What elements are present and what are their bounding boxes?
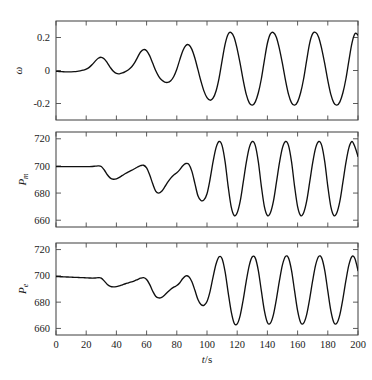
panel-0: 0.20-0.2ω (12, 21, 358, 120)
data-curve (56, 32, 358, 105)
x-tick-label: 0 (53, 339, 58, 350)
x-tick-label: 80 (172, 339, 183, 350)
three-panel-timeseries-figure: 0.20-0.2ω720700680660Pm02040608010012014… (0, 0, 372, 380)
y-tick-label: 680 (34, 188, 50, 199)
x-tick-label: 160 (290, 339, 306, 350)
y-axis-label: Pe (16, 283, 30, 295)
y-tick-label: 720 (34, 133, 50, 144)
panel-1: 720700680660Pm (16, 132, 358, 227)
panel-frame (56, 21, 358, 120)
x-tick-label: 60 (141, 339, 152, 350)
x-tick-label: 120 (229, 339, 245, 350)
x-tick-label: 200 (350, 339, 366, 350)
y-axis-label: Pm (16, 173, 30, 187)
panel-frame (56, 243, 358, 335)
y-tick-label: 700 (34, 270, 50, 281)
x-tick-label: 20 (81, 339, 92, 350)
y-tick-label: 0 (45, 65, 50, 76)
y-tick-label: 660 (34, 323, 50, 334)
y-tick-label: 720 (34, 244, 50, 255)
y-axis-label: ω (12, 66, 24, 74)
x-tick-label: 40 (111, 339, 122, 350)
data-curve (56, 141, 358, 215)
x-tick-label: 140 (260, 339, 276, 350)
y-tick-label: 0.2 (37, 32, 50, 43)
figure-container: 0.20-0.2ω720700680660Pm02040608010012014… (0, 0, 372, 380)
panel-2: 020406080100120140160180200720700680660P… (16, 243, 366, 365)
y-tick-label: 700 (34, 161, 50, 172)
y-tick-label: -0.2 (33, 98, 50, 109)
x-axis-label: t/s (202, 353, 212, 365)
panel-frame (56, 132, 358, 227)
x-tick-label: 100 (199, 339, 215, 350)
data-curve (56, 256, 358, 325)
y-tick-label: 660 (34, 215, 50, 226)
y-tick-label: 680 (34, 297, 50, 308)
x-tick-label: 180 (320, 339, 336, 350)
